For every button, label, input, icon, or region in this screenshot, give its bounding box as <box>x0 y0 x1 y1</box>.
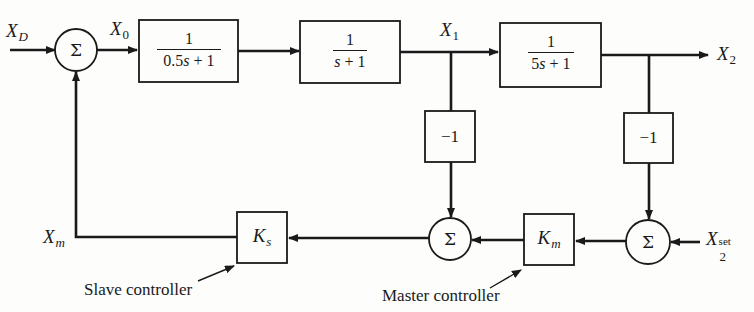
label-x0: X0 <box>110 18 129 43</box>
sum2-sigma-icon: Σ <box>429 218 471 260</box>
neg1-gain-label: −1 <box>425 111 475 162</box>
g2-transfer-function: 1 s + 1 <box>325 31 375 71</box>
km-gain-label: Km <box>524 214 574 265</box>
xm-feedback-arrow <box>76 72 237 237</box>
neg2-gain-label: −1 <box>624 113 673 163</box>
label-xd: XD <box>6 20 28 45</box>
slave-controller-caption: Slave controller <box>84 280 192 300</box>
ks-gain-label: Ks <box>237 212 287 263</box>
sum3-sigma-icon: Σ <box>626 220 670 264</box>
label-x1: X1 <box>440 19 459 44</box>
g3-transfer-function: 1 5s + 1 <box>525 33 577 73</box>
label-xm: Xm <box>43 226 65 251</box>
slave-leader-arrow <box>198 266 234 281</box>
label-x2: X2 <box>717 43 736 68</box>
g1-transfer-function: 1 0.5s + 1 <box>153 30 225 70</box>
sum1-sigma-icon: Σ <box>55 29 97 71</box>
cascade-control-diagram: XD X0 X1 X2 Xm X2set 1 0.5s + 1 1 s + 1 … <box>0 0 754 312</box>
label-x2-setpoint: X2set <box>706 228 736 250</box>
master-controller-caption: Master controller <box>382 286 500 306</box>
